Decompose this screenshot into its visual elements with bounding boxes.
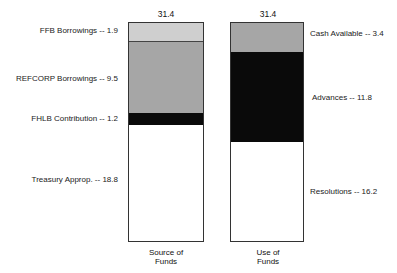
source-of-funds-bar [128, 22, 204, 242]
label-treasury-approp: Treasury Approp. -- 18.8 [32, 175, 118, 184]
category-line: Funds [230, 257, 306, 266]
segment-resolutions [231, 142, 303, 241]
use-total-label: 31.4 [230, 9, 306, 19]
category-line: Source of [128, 248, 204, 257]
label-cash-available: Cash Available -- 3.4 [310, 29, 384, 38]
category-source-of-funds: Source of Funds [128, 248, 204, 266]
category-use-of-funds: Use of Funds [230, 248, 306, 266]
category-line: Use of [230, 248, 306, 257]
source-total-label: 31.4 [128, 9, 204, 19]
label-fhlb-contribution: FHLB Contribution -- 1.2 [31, 114, 118, 123]
segment-fhlb-contribution [129, 113, 203, 125]
use-of-funds-bar [230, 22, 304, 242]
label-refcorp-borrowings: REFCORP Borrowings -- 9.5 [16, 74, 118, 83]
segment-ffb-borrowings [129, 23, 203, 42]
segment-treasury-approp [129, 125, 203, 241]
segment-cash-available [231, 23, 303, 52]
segment-refcorp-borrowings [129, 42, 203, 113]
label-advances: Advances -- 11.8 [312, 93, 372, 102]
category-line: Funds [128, 257, 204, 266]
label-ffb-borrowings: FFB Borrowings -- 1.9 [40, 26, 118, 35]
label-resolutions: Resolutions -- 16.2 [310, 187, 377, 196]
segment-advances [231, 52, 303, 142]
